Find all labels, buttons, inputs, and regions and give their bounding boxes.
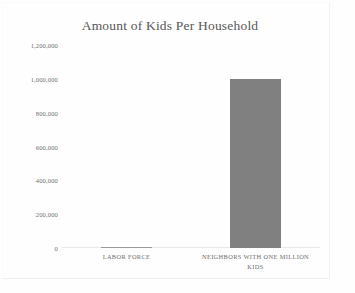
y-axis-tick-400000: 400,000 [0,177,58,184]
y-axis-tick-labels: 0200,000400,000600,000800,0001,000,0001,… [0,45,58,248]
y-axis-tick-0: 0 [0,245,58,252]
y-axis-tick-600000: 600,000 [0,143,58,150]
y-axis-tick-1200000: 1,200,000 [0,42,58,49]
x-axis-label-1: NEIGHBORS WITH ONE MILLION KIDS [194,252,317,272]
plot-area [62,45,320,248]
y-axis-tick-200000: 200,000 [0,211,58,218]
y-axis-tick-1000000: 1,000,000 [0,75,58,82]
bar-slot [230,45,282,248]
bar-labor-force[interactable] [101,247,153,248]
y-axis-tick-800000: 800,000 [0,109,58,116]
x-axis-label-0: LABOR FORCE [65,252,188,262]
bar-slot [101,45,153,248]
bar-chart-figure: Amount of Kids Per Household 0200,000400… [0,0,355,293]
chart-title: Amount of Kids Per Household [0,18,340,34]
bar-neighbors-with-one-million-kids[interactable] [230,79,282,248]
